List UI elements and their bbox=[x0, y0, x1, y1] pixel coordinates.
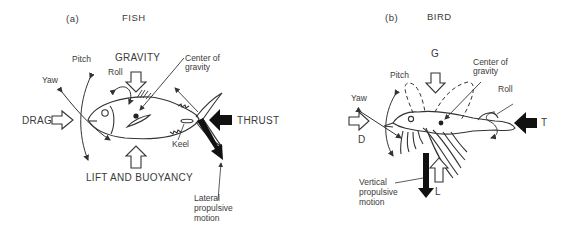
roll-axis-icon bbox=[486, 112, 497, 138]
fish-panel-letter: (a) bbox=[66, 14, 79, 24]
vertical-motion-arrow-icon bbox=[418, 153, 434, 198]
thrust-arrow-icon bbox=[514, 112, 537, 134]
fish-yaw-label: Yaw bbox=[42, 76, 58, 85]
lift-arrow-icon bbox=[430, 158, 448, 182]
bird-body-icon bbox=[384, 111, 515, 178]
bird-lift-label: L bbox=[435, 186, 441, 197]
bird-roll-label: Roll bbox=[498, 85, 513, 94]
fish-gravity-label: GRAVITY bbox=[115, 52, 160, 63]
bird-vertical-motion-label: Vertical propulsive motion bbox=[359, 177, 398, 208]
lift-arrow-icon bbox=[126, 146, 146, 168]
drag-arrow-icon bbox=[52, 111, 73, 129]
bird-diagram-art bbox=[283, 0, 566, 228]
fish-pitch-label: Pitch bbox=[72, 55, 91, 64]
fish-roll-label: Roll bbox=[108, 68, 123, 77]
yaw-axis-icon bbox=[361, 112, 401, 138]
fish-center-of-gravity-label: Center of gravity bbox=[185, 54, 220, 73]
roll-axis-icon bbox=[115, 87, 131, 104]
bird-pitch-label: Pitch bbox=[390, 71, 409, 80]
gravity-arrow-icon bbox=[126, 72, 146, 92]
bird-panel-letter: (b) bbox=[385, 13, 398, 23]
fish-diagram-art bbox=[0, 0, 283, 228]
gravity-arrow-icon bbox=[426, 73, 445, 93]
bird-panel: (b) BIRD G Pitch Yaw Roll Center of grav… bbox=[283, 0, 566, 228]
bird-center-of-gravity-label: Center of gravity bbox=[473, 58, 508, 77]
fish-panel-title: FISH bbox=[122, 13, 146, 23]
fish-thrust-label: THRUST bbox=[237, 115, 279, 126]
fish-lateral-motion-label: Lateral propulsive motion bbox=[194, 193, 233, 224]
bird-panel-title: BIRD bbox=[427, 12, 452, 22]
fish-panel: (a) FISH GRAVITY Pitch Yaw Roll Center o… bbox=[0, 0, 283, 228]
fish-keel-label: Keel bbox=[172, 140, 189, 149]
fish-lift-label: LIFT AND BUOYANCY bbox=[86, 172, 193, 183]
bird-thrust-label: T bbox=[541, 117, 547, 128]
fish-drag-label: DRAG bbox=[22, 115, 52, 126]
bird-gravity-label: G bbox=[431, 48, 439, 59]
bird-yaw-label: Yaw bbox=[351, 94, 367, 103]
thrust-arrow-icon bbox=[209, 109, 232, 131]
center-of-gravity-dot bbox=[133, 113, 138, 118]
bird-drag-label: D bbox=[358, 134, 366, 145]
center-of-gravity-dot bbox=[439, 121, 444, 126]
